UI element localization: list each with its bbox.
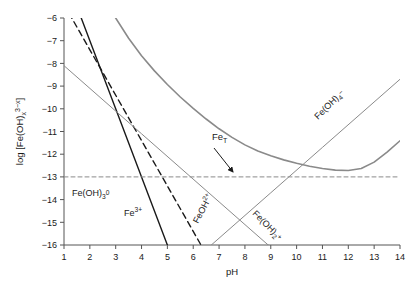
x-tick-label: 13 [369,252,379,262]
svg-text:FeOH2+: FeOH2+ [189,191,214,225]
svg-text:Fe(OH)2+: Fe(OH)2+ [250,208,285,243]
x-tick-label: 7 [217,252,222,262]
series-fe3 [64,0,167,245]
y-tick-label: −6 [47,13,57,23]
y-tick-label: −14 [42,195,57,205]
x-tick-label: 6 [191,252,196,262]
speciation-plot: −6−7−8−9−10−11−12−13−14−15−1612345678910… [0,0,416,302]
x-tick-label: 3 [113,252,118,262]
iron-speciation-figure: −6−7−8−9−10−11−12−13−14−15−1612345678910… [0,0,416,302]
x-tick-label: 8 [242,252,247,262]
y-tick-label: −15 [42,218,57,228]
svg-text:Fe(OH)30: Fe(OH)30 [72,188,110,200]
x-tick-label: 12 [343,252,353,262]
svg-text:Fe(OH)4−: Fe(OH)4− [312,88,347,123]
svg-text:Fe3+: Fe3+ [124,206,142,218]
fe-total-pointer-arrow [214,148,233,172]
x-tick-label: 5 [165,252,170,262]
x-tick-label: 10 [292,252,302,262]
y-axis-title: log [Fe(OH)x3−x] [14,98,27,165]
y-tick-label: −7 [47,36,57,46]
label-feoh3-neutral: Fe(OH)30 [72,188,110,200]
x-axis-title: pH [226,266,238,277]
label-fe3plus: Fe3+ [124,206,142,218]
y-tick-label: −13 [42,172,57,182]
label-feoh2-plus-cation: Fe(OH)2+ [250,208,285,243]
y-tick-label: −8 [47,59,57,69]
y-tick-label: −12 [42,149,57,159]
series-group [64,0,400,247]
label-feoh4-minus: Fe(OH)4− [312,88,347,123]
x-tick-label: 14 [395,252,405,262]
y-tick-label: −16 [42,240,57,250]
label-feoh2plus: FeOH2+ [189,191,214,225]
y-tick-label: −11 [42,127,57,137]
x-tick-label: 1 [61,252,66,262]
series-fe-oh-4 [211,79,400,245]
x-tick-label: 4 [139,252,144,262]
y-tick-label: −9 [47,81,57,91]
x-tick-label: 9 [268,252,273,262]
series-fet [64,0,400,171]
x-tick-label: 2 [87,252,92,262]
x-tick-label: 11 [318,252,327,262]
svg-text:log [Fe(OH)x3−x]: log [Fe(OH)x3−x] [14,98,27,165]
y-tick-label: −10 [42,104,57,114]
